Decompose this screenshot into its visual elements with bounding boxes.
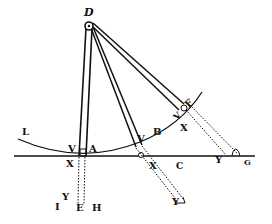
label-y2: Y <box>171 196 180 207</box>
label-v3: V <box>171 109 184 122</box>
point-c-circle <box>139 153 144 158</box>
label-d: D <box>83 6 94 19</box>
pivot-d-dot <box>88 25 90 27</box>
pendulum-diagram: D L V A X V B X C V F X Y G Y I Y E H <box>0 0 272 224</box>
label-i: I <box>55 201 60 212</box>
label-v2: V <box>136 133 145 144</box>
label-y3: Y <box>61 191 70 202</box>
dotted-line-ae <box>78 157 85 204</box>
label-e: E <box>76 202 84 213</box>
label-h: H <box>92 202 101 213</box>
rod-da <box>79 28 92 156</box>
rod-db <box>91 27 142 147</box>
label-x3: X <box>180 122 188 133</box>
label-v1: V <box>67 143 76 154</box>
label-l: L <box>22 126 29 137</box>
label-x1: X <box>66 158 74 169</box>
label-b: B <box>153 126 161 137</box>
label-x2: X <box>149 160 157 171</box>
label-a: A <box>88 143 97 154</box>
dotted-line-fg <box>186 105 237 155</box>
label-c: C <box>176 161 183 171</box>
label-y1: Y <box>214 154 223 165</box>
arc-curve <box>18 92 202 153</box>
label-g: G <box>244 157 251 167</box>
